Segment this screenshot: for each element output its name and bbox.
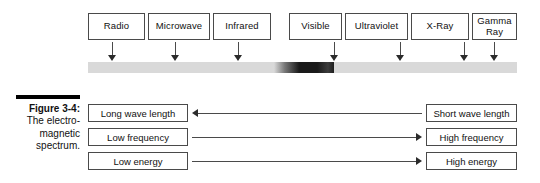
band-label: X-Ray [427, 21, 454, 32]
band-pointer-arrow-ultraviolet [396, 42, 405, 61]
band-box-radio: Radio [88, 13, 145, 40]
figure-caption-line2: magnetic [39, 128, 80, 139]
comparison-box-long-wave-length: Long wave length [88, 104, 188, 122]
arrow-head-right [416, 157, 422, 165]
connector-line [197, 113, 422, 114]
arrow-head-right [416, 133, 422, 141]
arrow-stem [334, 42, 335, 56]
comparison-connector-row-1 [192, 109, 422, 118]
connector-line [192, 161, 417, 162]
band-pointer-arrow-radio [108, 42, 117, 61]
band-label: Visible [301, 21, 330, 32]
band-box-gamma-ray: GammaRay [472, 13, 517, 40]
connector-line [192, 137, 417, 138]
band-box-ultraviolet: Ultraviolet [345, 13, 408, 40]
figure-caption-title: Figure 3-4: [29, 103, 80, 114]
band-label: Radio [104, 21, 129, 32]
comparison-label: High energy [446, 156, 497, 167]
band-pointer-arrow-microwave [171, 42, 180, 61]
band-pointer-arrow-visible [330, 42, 339, 61]
comparison-label: High frequency [440, 132, 504, 143]
arrow-head-down [396, 55, 404, 61]
caption-rule [16, 95, 80, 99]
arrow-head-down [460, 55, 468, 61]
comparison-box-high-energy: High energy [426, 152, 517, 170]
comparison-connector-row-2 [192, 133, 422, 142]
arrow-head-down [330, 55, 338, 61]
comparison-label: Long wave length [101, 108, 175, 119]
band-box-x-ray: X-Ray [411, 13, 469, 40]
band-pointer-arrow-gamma-ray [490, 42, 499, 61]
comparison-label: Short wave length [433, 108, 509, 119]
comparison-label: Low energy [113, 156, 162, 167]
comparison-box-high-frequency: High frequency [426, 128, 517, 146]
electromagnetic-spectrum-figure: RadioMicrowaveInfraredVisibleUltraviolet… [0, 0, 540, 183]
band-label: Ultraviolet [355, 21, 398, 32]
arrow-stem [400, 42, 401, 56]
arrow-stem [494, 42, 495, 56]
arrow-head-down [234, 55, 242, 61]
figure-caption: Figure 3-4: The electro- magnetic spectr… [0, 103, 80, 153]
figure-caption-line1: The electro- [27, 115, 80, 126]
arrow-head-down [490, 55, 498, 61]
comparison-box-short-wave-length: Short wave length [426, 104, 517, 122]
band-box-infrared: Infrared [213, 13, 271, 40]
arrow-stem [464, 42, 465, 56]
spectrum-bar [88, 62, 517, 73]
comparison-box-low-frequency: Low frequency [88, 128, 188, 146]
band-label: Infrared [225, 21, 259, 32]
band-box-microwave: Microwave [148, 13, 210, 40]
arrow-head-left [192, 109, 198, 117]
arrow-head-down [108, 55, 116, 61]
band-label: Microwave [156, 21, 202, 32]
comparison-connector-row-3 [192, 157, 422, 166]
arrow-stem [175, 42, 176, 56]
arrow-stem [238, 42, 239, 56]
figure-caption-line3: spectrum. [36, 140, 80, 151]
band-box-visible: Visible [289, 13, 342, 40]
comparison-label: Low frequency [107, 132, 169, 143]
band-pointer-arrow-infrared [234, 42, 243, 61]
comparison-box-low-energy: Low energy [88, 152, 188, 170]
band-label: GammaRay [477, 16, 511, 37]
band-pointer-arrow-x-ray [460, 42, 469, 61]
arrow-stem [112, 42, 113, 56]
visible-light-band [274, 62, 334, 73]
arrow-head-down [171, 55, 179, 61]
